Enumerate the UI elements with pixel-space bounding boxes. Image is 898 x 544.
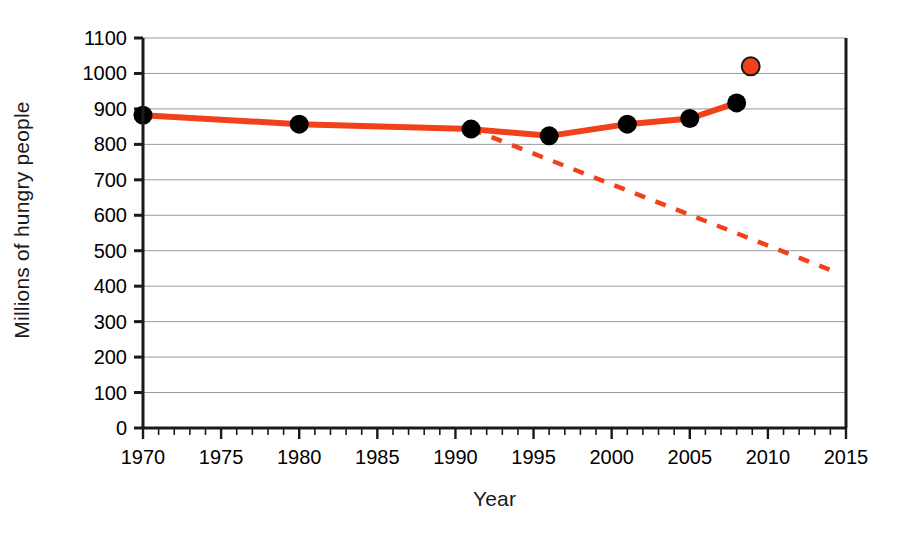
data-point-marker — [462, 120, 481, 139]
x-tick-label-2015: 2015 — [824, 446, 869, 468]
gridlines-group — [143, 38, 846, 393]
y-axis-title: Millions of hungry people — [10, 101, 34, 338]
y-tick-label-1100: 1100 — [84, 27, 127, 49]
x-tick-label-1995: 1995 — [511, 446, 556, 468]
hunger-line-chart: Millions of hungry people Year 010020030… — [0, 0, 898, 544]
y-tick-label-500: 500 — [94, 240, 127, 262]
y-axis-title-container: Millions of hungry people — [0, 0, 44, 440]
x-tick-label-1990: 1990 — [433, 446, 478, 468]
x-tick-label-1970: 1970 — [121, 446, 166, 468]
x-tick-label-2000: 2000 — [589, 446, 634, 468]
data-markers-group — [134, 57, 760, 145]
y-tick-label-600: 600 — [94, 204, 127, 226]
highlighted-data-point-marker — [742, 57, 760, 75]
plot-area: 010020030040050060070080090010001100 197… — [0, 0, 898, 480]
y-tick-label-400: 400 — [94, 275, 127, 297]
x-tick-label-2010: 2010 — [746, 446, 791, 468]
x-tick-label-2005: 2005 — [668, 446, 713, 468]
y-tick-label-200: 200 — [94, 346, 127, 368]
x-axis-tick-labels-group: 1970197519801985199019952000200520102015 — [121, 446, 869, 468]
series-line-1 — [471, 129, 838, 273]
y-tick-label-300: 300 — [94, 311, 127, 333]
data-point-marker — [618, 115, 637, 134]
series-line-0 — [143, 103, 737, 136]
y-tick-label-0: 0 — [116, 417, 127, 439]
data-series-group — [143, 103, 838, 273]
x-tick-label-1980: 1980 — [277, 446, 322, 468]
y-tick-label-1000: 1000 — [83, 62, 128, 84]
data-point-marker — [540, 126, 559, 145]
x-axis-major-ticks-group — [143, 428, 846, 439]
x-axis-title: Year — [473, 487, 516, 510]
x-tick-label-1975: 1975 — [199, 446, 244, 468]
y-axis-tick-labels-group: 010020030040050060070080090010001100 — [83, 27, 128, 439]
y-tick-label-100: 100 — [94, 382, 127, 404]
data-point-marker — [680, 109, 699, 128]
y-tick-label-900: 900 — [94, 98, 127, 120]
data-point-marker — [727, 93, 746, 112]
x-axis-title-container: Year — [143, 487, 846, 511]
data-point-marker — [290, 115, 309, 134]
y-tick-label-700: 700 — [94, 169, 127, 191]
x-tick-label-1985: 1985 — [355, 446, 400, 468]
y-tick-label-800: 800 — [94, 133, 127, 155]
